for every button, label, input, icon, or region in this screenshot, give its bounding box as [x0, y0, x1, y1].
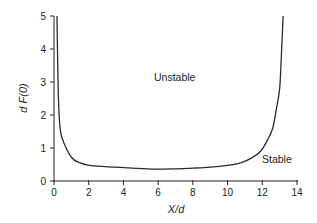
stability-chart: 02468101214012345 X/d d F(0) Unstable St…: [0, 0, 317, 223]
y-tick-label: 2: [40, 110, 46, 121]
y-tick-label: 3: [40, 77, 46, 88]
y-tick-label: 5: [40, 11, 46, 22]
x-tick-label: 4: [121, 187, 127, 198]
ticks: 02468101214012345: [40, 11, 303, 199]
y-tick-label: 0: [40, 176, 46, 187]
x-tick-label: 6: [155, 187, 161, 198]
unstable-label: Unstable: [154, 71, 196, 83]
x-tick-label: 2: [86, 187, 92, 198]
x-tick-label: 10: [222, 187, 234, 198]
y-tick-label: 4: [40, 44, 46, 55]
y-tick-label: 1: [40, 143, 46, 154]
x-tick-label: 12: [257, 187, 269, 198]
stability-curve: [57, 16, 283, 169]
x-tick-label: 0: [51, 187, 57, 198]
y-axis-label: d F(0): [17, 83, 29, 113]
stable-label: Stable: [262, 153, 292, 165]
x-tick-label: 14: [291, 187, 303, 198]
x-tick-label: 8: [190, 187, 196, 198]
x-axis-label: X/d: [167, 203, 185, 215]
